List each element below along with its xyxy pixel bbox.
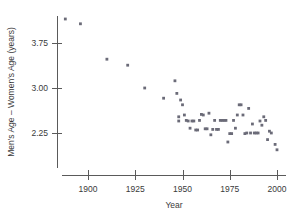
scatter-chart-figure: 2.253.003.75 19001925195019752000 Year M…: [0, 0, 299, 224]
data-point: [242, 114, 245, 117]
data-point: [177, 120, 180, 123]
data-point: [276, 148, 279, 151]
data-point: [64, 18, 67, 21]
x-tick-label-1900: 1900: [79, 184, 98, 194]
data-point: [162, 97, 165, 100]
data-point: [247, 107, 250, 110]
data-point: [208, 112, 211, 115]
scatter-points-group: [64, 18, 278, 152]
y-tick-label-3.00: 3.00: [31, 83, 48, 93]
data-point: [266, 138, 269, 141]
data-point: [189, 127, 192, 130]
x-tick-label-1950: 1950: [173, 184, 192, 194]
data-point: [181, 103, 184, 106]
data-point: [217, 128, 220, 131]
data-point: [240, 103, 243, 106]
data-point: [259, 120, 262, 123]
data-point: [209, 133, 212, 136]
data-point: [236, 114, 239, 117]
data-point: [262, 115, 265, 118]
data-point: [213, 119, 216, 122]
data-point: [234, 127, 237, 130]
data-point: [177, 115, 180, 118]
data-point: [274, 143, 277, 146]
data-point: [257, 132, 260, 135]
data-point: [143, 87, 146, 90]
data-point: [232, 119, 235, 122]
y-tick-label-3.75: 3.75: [31, 38, 48, 48]
x-tick-label-1925: 1925: [126, 184, 145, 194]
data-point: [249, 132, 252, 135]
x-axis-tick-labels: 19001925195019752000: [79, 184, 287, 194]
x-axis-title: Year: [165, 200, 182, 210]
data-point: [126, 64, 129, 67]
data-point: [196, 129, 199, 132]
data-point: [206, 127, 209, 130]
y-axis-title: Men's Age – Women's Age (years): [6, 27, 16, 157]
data-point: [270, 132, 273, 135]
data-point: [260, 124, 263, 127]
data-point: [211, 128, 214, 131]
x-tick-label-1975: 1975: [220, 184, 239, 194]
data-point: [225, 119, 228, 122]
y-axis-tick-labels: 2.253.003.75: [31, 38, 48, 138]
data-point: [264, 119, 267, 122]
x-tick-label-2000: 2000: [268, 184, 287, 194]
data-point: [179, 99, 182, 102]
data-point: [245, 132, 248, 135]
data-point: [202, 114, 205, 117]
chart-canvas: 2.253.003.75 19001925195019752000 Year M…: [0, 0, 299, 224]
data-point: [192, 120, 195, 123]
data-point: [198, 119, 201, 122]
data-point: [230, 132, 233, 135]
data-point: [174, 79, 177, 82]
data-point: [175, 92, 178, 95]
data-point: [79, 22, 82, 25]
data-point: [106, 58, 109, 61]
y-tick-label-2.25: 2.25: [31, 128, 48, 138]
data-point: [183, 114, 186, 117]
data-point: [226, 141, 229, 144]
data-point: [251, 123, 254, 126]
data-point: [187, 120, 190, 123]
